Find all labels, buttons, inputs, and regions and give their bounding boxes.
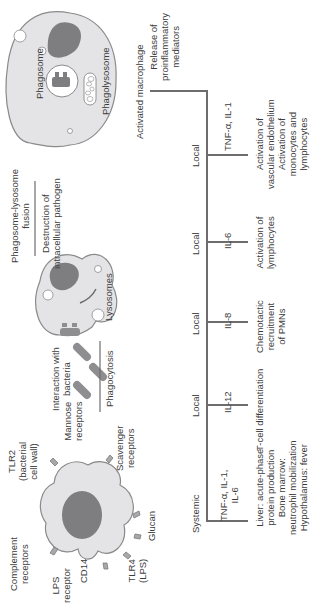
- label-glucan: Glucan: [146, 511, 157, 541]
- label-phagosome: Phagosome: [34, 48, 45, 99]
- branch-mediator-tnf: TNF-α, IL-1: [222, 102, 233, 151]
- label-interaction-with-bacteria: Interaction with bacteria: [50, 347, 72, 411]
- branch-scope-local-tnf: Local: [190, 144, 201, 167]
- branch-scope-local-il8: Local: [190, 312, 201, 335]
- label-phagolysosome: Phagolysosome: [100, 47, 111, 115]
- branch-effect-il6: Activation of lymphocytes: [254, 216, 276, 269]
- nucleus-icon: [62, 491, 102, 539]
- label-lps-receptor: LPS receptor: [50, 568, 72, 603]
- label-tlr4: TLR4 (LPS): [126, 559, 148, 583]
- label-lysosomes: Lysosomes: [103, 273, 114, 321]
- label-cd14: CD14: [78, 559, 89, 583]
- branch-scope-local-il6: Local: [190, 232, 201, 255]
- release-connector-line: [150, 90, 208, 92]
- label-complement-receptors: Complement receptors: [8, 537, 30, 591]
- branch-effect-systemic: Liver: acute-phase protein production Bo…: [254, 440, 309, 535]
- branch-mediator-il8: IL-8: [222, 313, 233, 329]
- branch-mediator-il6: IL-6: [222, 233, 233, 249]
- label-activated-macrophage: Activated macrophage: [134, 44, 145, 139]
- label-phagocytosis: Phagocytosis: [104, 350, 115, 407]
- label-scavenger-receptors: Scavenger receptors: [114, 426, 136, 471]
- label-destruction-of-pathogen: Destruction of intracellular pathogen: [40, 178, 62, 269]
- branch-scope-local-il12: Local: [190, 394, 201, 417]
- macrophage-cell: [40, 455, 141, 569]
- branch-mediator-systemic: TNF-α, IL-1, IL-6: [218, 470, 240, 521]
- branch-effect-il12: T-cell differentiation: [254, 369, 265, 451]
- branch-mediator-il12: IL-12: [222, 391, 233, 413]
- branch-effect-tnf: Activation of vascular endothelium Activ…: [254, 99, 309, 189]
- label-phagosome-lysosome-fusion: Phagosome-lysosome fusion: [9, 169, 31, 263]
- branch-scope-systemic: Systemic: [190, 494, 201, 533]
- diagram-canvas: Complement receptors TLR2 (bacterial cel…: [0, 0, 319, 611]
- label-release-of-mediators: Release of proinflammatory mediators: [148, 13, 181, 81]
- branch-effect-il8: Chemotactic recruitment of PMNs: [254, 300, 287, 353]
- tnf-branch-line: [206, 154, 248, 156]
- label-tlr2: TLR2 (bacterial cell wall): [6, 442, 39, 481]
